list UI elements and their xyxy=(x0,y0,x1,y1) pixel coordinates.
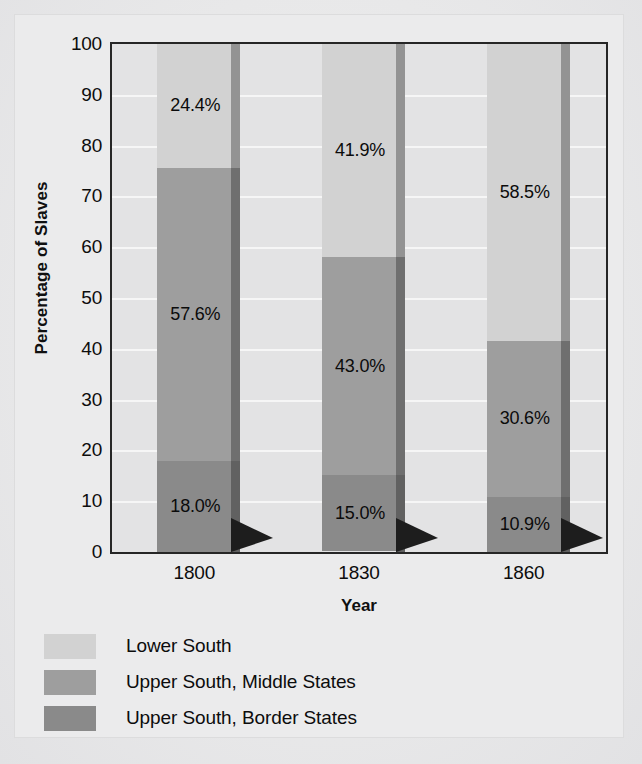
bar-3d-side xyxy=(231,44,240,552)
y-tick-50: 50 xyxy=(81,287,102,309)
y-tick-60: 60 xyxy=(81,236,102,258)
bar-segment[interactable]: 57.6% xyxy=(157,168,231,461)
y-tick-80: 80 xyxy=(81,135,102,157)
bar-segment-label: 43.0% xyxy=(322,356,385,377)
bar-segment-label: 10.9% xyxy=(487,514,550,535)
y-tick-10: 10 xyxy=(81,490,102,512)
x-tick-1800: 1800 xyxy=(174,562,215,584)
bar-segment[interactable]: 24.4% xyxy=(157,44,231,168)
bar-segment-label: 24.4% xyxy=(157,95,220,116)
bar-segment[interactable]: 43.0% xyxy=(322,257,396,475)
bar-segment-label: 58.5% xyxy=(487,182,550,203)
y-tick-40: 40 xyxy=(81,338,102,360)
bar-segment-label: 18.0% xyxy=(157,496,220,517)
stacked-bar[interactable]: 58.5%30.6%10.9% xyxy=(487,44,561,552)
bar-segment[interactable]: 30.6% xyxy=(487,341,561,496)
bar-segment[interactable]: 41.9% xyxy=(322,44,396,257)
x-tick-1830: 1830 xyxy=(338,562,379,584)
bar-segment[interactable]: 18.0% xyxy=(157,461,231,552)
bar-segment[interactable]: 15.0% xyxy=(322,475,396,551)
legend: Lower SouthUpper South, Middle StatesUpp… xyxy=(36,628,576,736)
legend-swatch xyxy=(44,706,96,731)
bar-segment-label: 57.6% xyxy=(157,304,220,325)
y-axis-title: Percentage of Slaves xyxy=(32,148,52,388)
legend-item[interactable]: Upper South, Middle States xyxy=(36,664,576,700)
bar-group-1830[interactable]: 41.9%43.0%15.0% xyxy=(322,44,396,552)
bar-segment-label: 15.0% xyxy=(322,503,385,524)
stacked-bar[interactable]: 24.4%57.6%18.0% xyxy=(157,44,231,552)
legend-label: Lower South xyxy=(126,635,232,657)
bar-3d-side xyxy=(561,44,570,552)
plot-area: 24.4%57.6%18.0%41.9%43.0%15.0%58.5%30.6%… xyxy=(110,42,608,554)
legend-swatch xyxy=(44,670,96,695)
bar-segment[interactable]: 10.9% xyxy=(487,497,561,552)
y-tick-70: 70 xyxy=(81,185,102,207)
x-axis-tick-labels: 180018301860 xyxy=(110,562,608,590)
stacked-bar-chart-figure: Percentage of Slaves 0102030405060708090… xyxy=(14,14,624,738)
y-tick-0: 0 xyxy=(92,541,102,563)
y-tick-30: 30 xyxy=(81,389,102,411)
y-tick-90: 90 xyxy=(81,84,102,106)
y-axis-tick-labels: 0102030405060708090100 xyxy=(52,42,102,554)
legend-swatch xyxy=(44,634,96,659)
y-tick-100: 100 xyxy=(71,33,102,55)
legend-item[interactable]: Lower South xyxy=(36,628,576,664)
bar-base-shadow xyxy=(396,518,438,552)
bar-segment-label: 30.6% xyxy=(487,408,550,429)
bar-segment-label: 41.9% xyxy=(322,140,385,161)
stacked-bar[interactable]: 41.9%43.0%15.0% xyxy=(322,44,396,552)
x-tick-1860: 1860 xyxy=(503,562,544,584)
bar-group-1860[interactable]: 58.5%30.6%10.9% xyxy=(487,44,561,552)
bar-base-shadow xyxy=(561,518,603,552)
bar-base-shadow xyxy=(231,518,273,552)
legend-item[interactable]: Upper South, Border States xyxy=(36,700,576,736)
legend-label: Upper South, Middle States xyxy=(126,671,356,693)
legend-label: Upper South, Border States xyxy=(126,707,357,729)
bar-group-1800[interactable]: 24.4%57.6%18.0% xyxy=(157,44,231,552)
bar-segment[interactable]: 58.5% xyxy=(487,44,561,341)
bar-3d-side xyxy=(396,44,405,552)
x-axis-title: Year xyxy=(110,596,608,616)
y-tick-20: 20 xyxy=(81,439,102,461)
